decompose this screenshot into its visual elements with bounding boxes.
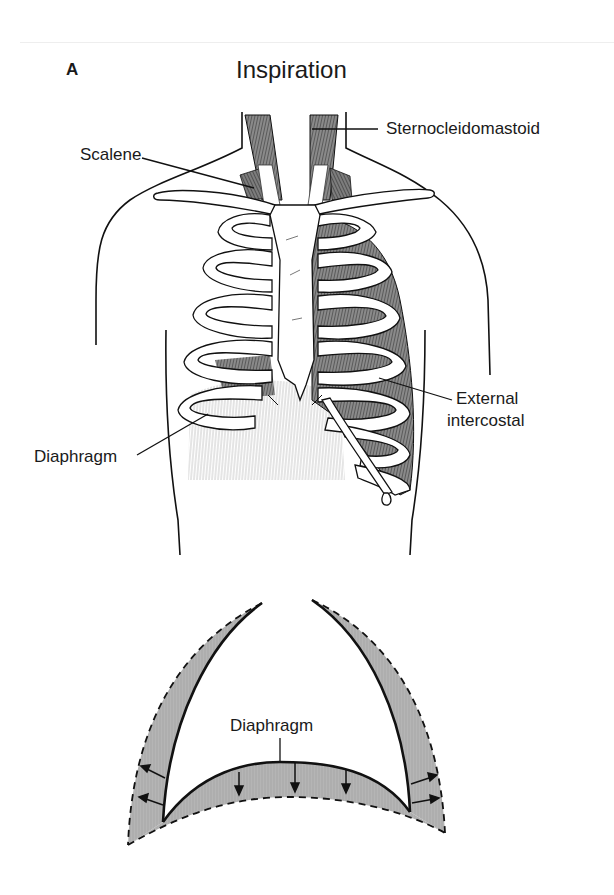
- label-diaphragm: Diaphragm: [34, 447, 117, 467]
- label-scalene: Scalene: [80, 145, 141, 165]
- label-external-intercostal-line1: External: [456, 389, 518, 409]
- label-schematic-diaphragm: Diaphragm: [230, 716, 313, 736]
- label-external-intercostal-line2: intercostal: [447, 411, 524, 431]
- schematic-diaphragm-shade: [128, 762, 445, 845]
- scalene-right: [330, 168, 352, 200]
- left-ribs: [178, 214, 272, 430]
- label-sternocleidomastoid: Sternocleidomastoid: [386, 119, 540, 139]
